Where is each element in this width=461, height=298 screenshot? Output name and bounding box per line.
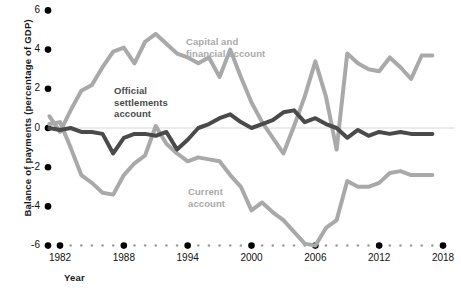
series-label-capital-and-financial-account: Capital andfinancial account: [186, 36, 265, 59]
x-tick-label: 2012: [359, 252, 399, 263]
x-tick-label: 1988: [104, 252, 144, 263]
series-label-line: account: [114, 108, 168, 120]
x-axis-title: Year: [64, 272, 85, 283]
series-label-line: financial account: [186, 48, 265, 60]
x-tick-label: 2000: [232, 252, 272, 263]
series-label-line: Capital and: [186, 36, 265, 48]
y-tick-label: 6: [14, 4, 40, 15]
series-label-line: Current: [188, 186, 225, 198]
series-label-official-settlements-account: Officialsettlementsaccount: [114, 85, 168, 120]
series-label-line: settlements: [114, 97, 168, 109]
y-axis-title: Balance of payments (percentage of GDP): [22, 47, 33, 217]
x-axis-dotted-baseline: [48, 242, 446, 249]
y-tick-label: -6: [14, 239, 40, 250]
series-label-line: account: [188, 198, 225, 210]
series-label-line: Official: [114, 85, 168, 97]
series-label-current-account: Currentaccount: [188, 186, 225, 209]
x-tick-label: 2006: [295, 252, 335, 263]
x-tick-label: 2018: [423, 252, 461, 263]
x-tick-label: 1994: [168, 252, 208, 263]
balance-of-payments-chart: 6420-2-4-6 1982198819942000200620122018 …: [0, 0, 461, 298]
x-tick-label: 1982: [40, 252, 80, 263]
data-series-lines: [49, 34, 432, 246]
